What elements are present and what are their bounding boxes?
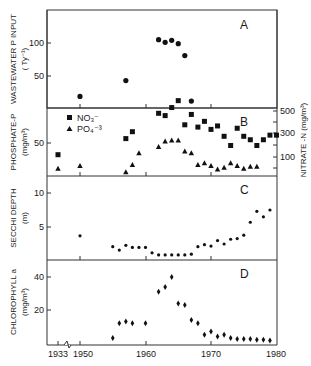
data-point: [229, 238, 232, 241]
tick-label: 1933: [48, 349, 68, 359]
data-point: [77, 163, 82, 168]
panel-letters: A B C D: [240, 18, 249, 281]
data-point: [261, 137, 266, 142]
data-point: [268, 338, 272, 344]
tick-label: 10: [34, 188, 44, 198]
data-point: [144, 320, 148, 326]
panel-label-a: A: [240, 18, 248, 32]
data-point: [182, 148, 187, 153]
data-point: [216, 239, 219, 242]
data-point: [170, 253, 173, 256]
data-point: [235, 336, 239, 342]
triangle-marker-icon: [67, 126, 73, 131]
data-point: [177, 253, 180, 256]
data-point: [55, 166, 60, 171]
data-point: [215, 167, 220, 172]
y-axis-label-right-b: NITRATE -N (mg/m³): [299, 102, 308, 177]
y-axis-label-b: PHOSPHATE-P: [9, 114, 18, 171]
data-point: [235, 163, 240, 168]
data-point: [267, 133, 272, 138]
data-point: [202, 160, 207, 165]
data-point: [169, 105, 174, 110]
data-point: [162, 138, 167, 143]
data-point: [255, 337, 259, 343]
legend: NO₃⁻ PO₄⁻³: [67, 113, 102, 134]
data-point: [124, 244, 127, 247]
tick-label: 20: [34, 305, 44, 315]
data-point: [176, 138, 181, 143]
data-point: [242, 234, 245, 237]
data-point: [123, 78, 128, 83]
y-axis-units-b: (mg/m³): [20, 128, 29, 156]
data-point: [56, 152, 61, 157]
data-point: [131, 246, 134, 249]
data-point: [111, 335, 115, 341]
square-marker-icon: [67, 115, 72, 120]
multi-panel-chart: 100 50 50 10 5 40 20 500 300 100 1933 19…: [0, 0, 311, 366]
data-point: [123, 136, 128, 141]
data-point: [248, 137, 253, 142]
data-point: [124, 319, 128, 325]
data-point: [229, 335, 233, 341]
data-point: [183, 253, 186, 256]
data-point: [249, 336, 253, 342]
data-point: [241, 166, 246, 171]
data-point: [262, 215, 265, 218]
y-axis-units-d: (mg/m³): [20, 288, 29, 316]
y-axis-label-c: SECCHI DEPTH: [9, 188, 18, 248]
data-point: [156, 111, 161, 116]
data-point: [274, 133, 279, 138]
data-point: [111, 245, 114, 248]
data-point: [164, 253, 167, 256]
data-point: [78, 234, 81, 237]
data-point: [144, 246, 147, 249]
tick-label: 100: [29, 38, 44, 48]
data-point: [130, 129, 135, 134]
data-point: [203, 332, 207, 338]
data-point: [176, 300, 180, 306]
y-axis-units-a: ( Ty⁻¹): [20, 47, 29, 70]
data-point: [131, 320, 135, 326]
data-point: [156, 37, 161, 42]
tick-label: 1950: [73, 349, 93, 359]
data-point: [182, 122, 187, 127]
tick-label: 1960: [136, 349, 156, 359]
data-point: [196, 320, 200, 326]
tick-label: 100: [280, 152, 295, 162]
tick-label: 300: [280, 128, 295, 138]
y-axis-label-d: CHLOROPHYLL a: [9, 268, 18, 335]
data-point: [170, 274, 174, 280]
data-point: [150, 251, 153, 254]
tick-label: 1980: [266, 349, 286, 359]
data-point: [169, 38, 174, 43]
data-point: [209, 244, 212, 247]
data-point: [189, 98, 194, 103]
data-point: [190, 317, 194, 323]
y-axis-units-c: (m): [20, 212, 29, 224]
data-point: [209, 328, 213, 334]
data-point: [169, 138, 174, 143]
data-point: [183, 302, 187, 308]
data-point: [123, 169, 128, 174]
tick-label: 1970: [201, 349, 221, 359]
axis-labels: WASTEWATER P INPUT ( Ty⁻¹) PHOSPHATE-P (…: [9, 14, 308, 335]
data-point: [176, 41, 181, 46]
data-point: [137, 246, 140, 249]
tick-label: 50: [34, 71, 44, 81]
data-point: [208, 163, 213, 168]
data-point: [156, 144, 161, 149]
data-point: [157, 289, 161, 295]
data-point: [215, 123, 220, 128]
data-point: [203, 243, 206, 246]
data-point: [235, 126, 240, 131]
data-point: [163, 40, 168, 45]
data-point: [248, 164, 253, 169]
tick-label: 40: [34, 272, 44, 282]
data-point: [255, 210, 258, 213]
data-point: [189, 150, 194, 155]
panel-label-c: C: [240, 183, 249, 197]
data-point: [209, 127, 214, 132]
frames: [47, 10, 277, 345]
data-point: [182, 53, 187, 58]
tick-label: 500: [280, 106, 295, 116]
